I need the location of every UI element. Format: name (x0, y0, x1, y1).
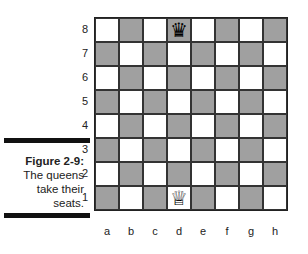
square-e7 (191, 42, 215, 66)
file-label-c: c (143, 225, 167, 237)
square-f8 (215, 18, 239, 42)
square-c1 (143, 186, 167, 210)
square-g2 (239, 162, 263, 186)
rank-label-4: 4 (80, 119, 90, 131)
square-c3 (143, 138, 167, 162)
square-c5 (143, 90, 167, 114)
square-d8: ♛ (167, 18, 191, 42)
square-b6 (119, 66, 143, 90)
square-c7 (143, 42, 167, 66)
square-c2 (143, 162, 167, 186)
square-g5 (239, 90, 263, 114)
square-a2 (95, 162, 119, 186)
square-d3 (167, 138, 191, 162)
caption-line: The queens (0, 168, 84, 182)
square-f4 (215, 114, 239, 138)
square-e4 (191, 114, 215, 138)
chessboard: ♛♕ (94, 17, 288, 211)
square-e1 (191, 186, 215, 210)
square-h3 (263, 138, 287, 162)
square-e8 (191, 18, 215, 42)
square-e3 (191, 138, 215, 162)
rank-label-1: 1 (80, 191, 90, 203)
square-a6 (95, 66, 119, 90)
file-label-a: a (95, 225, 119, 237)
square-f3 (215, 138, 239, 162)
square-f7 (215, 42, 239, 66)
caption-line: take their (0, 182, 84, 196)
square-a8 (95, 18, 119, 42)
square-c8 (143, 18, 167, 42)
square-c6 (143, 66, 167, 90)
square-a1 (95, 186, 119, 210)
caption-line: seats. (0, 196, 84, 210)
white-queen-icon: ♕ (170, 188, 188, 208)
file-label-g: g (239, 225, 263, 237)
square-b3 (119, 138, 143, 162)
square-h1 (263, 186, 287, 210)
black-queen-icon: ♛ (170, 20, 188, 40)
square-d6 (167, 66, 191, 90)
square-h4 (263, 114, 287, 138)
square-a7 (95, 42, 119, 66)
square-d5 (167, 90, 191, 114)
square-e5 (191, 90, 215, 114)
rank-label-6: 6 (80, 71, 90, 83)
square-a3 (95, 138, 119, 162)
rank-label-8: 8 (80, 23, 90, 35)
square-d2 (167, 162, 191, 186)
file-label-f: f (215, 225, 239, 237)
file-label-e: e (191, 225, 215, 237)
square-g8 (239, 18, 263, 42)
caption-bottom-rule (4, 213, 90, 218)
square-h5 (263, 90, 287, 114)
square-b7 (119, 42, 143, 66)
square-g1 (239, 186, 263, 210)
square-h2 (263, 162, 287, 186)
square-g3 (239, 138, 263, 162)
square-d7 (167, 42, 191, 66)
file-label-d: d (167, 225, 191, 237)
rank-label-7: 7 (80, 47, 90, 59)
square-g4 (239, 114, 263, 138)
square-g6 (239, 66, 263, 90)
square-b2 (119, 162, 143, 186)
square-b8 (119, 18, 143, 42)
rank-label-3: 3 (80, 143, 90, 155)
square-e2 (191, 162, 215, 186)
rank-label-5: 5 (80, 95, 90, 107)
file-label-b: b (119, 225, 143, 237)
file-label-h: h (263, 225, 287, 237)
rank-label-2: 2 (80, 167, 90, 179)
square-h7 (263, 42, 287, 66)
square-e6 (191, 66, 215, 90)
figure-label: Figure 2-9: (0, 154, 84, 168)
square-b1 (119, 186, 143, 210)
caption-top-rule (4, 138, 90, 143)
square-a5 (95, 90, 119, 114)
square-f2 (215, 162, 239, 186)
square-f1 (215, 186, 239, 210)
square-f6 (215, 66, 239, 90)
square-d4 (167, 114, 191, 138)
square-f5 (215, 90, 239, 114)
square-b4 (119, 114, 143, 138)
square-b5 (119, 90, 143, 114)
square-h6 (263, 66, 287, 90)
square-g7 (239, 42, 263, 66)
square-c4 (143, 114, 167, 138)
square-h8 (263, 18, 287, 42)
figure-caption: Figure 2-9: The queens take their seats. (0, 154, 84, 210)
square-d1: ♕ (167, 186, 191, 210)
square-a4 (95, 114, 119, 138)
